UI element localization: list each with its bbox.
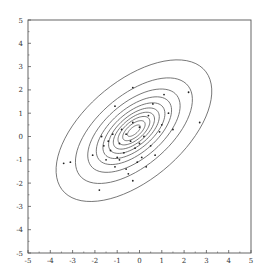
x-tick-label: 3 [204, 257, 208, 265]
data-point [121, 129, 123, 131]
data-point [110, 150, 112, 152]
data-point [69, 161, 71, 163]
data-point [105, 159, 107, 161]
data-point [127, 173, 129, 175]
contour-line [127, 125, 140, 136]
contour-line [123, 121, 145, 141]
data-point [154, 154, 156, 156]
plot-frame [28, 20, 251, 253]
data-point [139, 143, 141, 145]
y-tick-label: 3 [19, 63, 23, 71]
data-point [103, 145, 105, 147]
contour-line [56, 60, 212, 202]
data-point [159, 131, 161, 133]
x-tick-label: -4 [47, 257, 54, 265]
data-point [150, 145, 152, 147]
data-point [168, 112, 170, 114]
y-tick-label: 2 [19, 86, 23, 94]
data-point [141, 157, 143, 159]
data-point [92, 154, 94, 156]
data-point [161, 124, 163, 126]
x-tick-label: -2 [91, 257, 98, 265]
data-point [148, 115, 150, 117]
data-point [123, 152, 125, 154]
data-point [125, 168, 127, 170]
y-axis: 543210-1-2-3-4-5 [16, 17, 31, 258]
contour-line [109, 108, 160, 153]
y-tick-label: -5 [16, 250, 23, 258]
x-tick-label: 1 [160, 257, 164, 265]
y-tick-label: -3 [16, 203, 23, 211]
data-point [63, 162, 65, 164]
y-tick-label: -4 [16, 226, 23, 234]
data-point [112, 133, 114, 135]
y-tick-label: -2 [16, 180, 23, 188]
x-tick-label: -3 [69, 257, 76, 265]
x-tick-label: 2 [182, 257, 186, 265]
data-point [119, 159, 121, 161]
data-point [163, 94, 165, 96]
y-tick-label: 4 [19, 40, 24, 48]
x-tick-label: 0 [137, 257, 141, 265]
data-point [119, 143, 121, 145]
contour-line [88, 89, 180, 172]
data-point [134, 147, 136, 149]
y-tick-label: 5 [19, 17, 23, 25]
data-point [188, 91, 190, 93]
data-point [114, 166, 116, 168]
data-point [130, 140, 132, 142]
data-point [143, 136, 145, 138]
data-point [107, 140, 109, 142]
data-point [132, 122, 134, 124]
data-point [172, 129, 174, 131]
data-point [145, 166, 147, 168]
y-tick-label: -1 [16, 156, 23, 164]
data-point [101, 136, 103, 138]
data-point [136, 161, 138, 163]
data-point [139, 126, 141, 128]
x-tick-label: 5 [249, 257, 253, 265]
y-tick-label: 0 [19, 133, 23, 141]
data-point [114, 105, 116, 107]
data-point [125, 133, 127, 135]
data-point [116, 157, 118, 159]
data-point [98, 189, 100, 191]
x-tick-label: -1 [114, 257, 121, 265]
data-point [132, 180, 134, 182]
y-tick-label: 1 [19, 110, 23, 118]
data-point [199, 122, 201, 124]
x-tick-label: 4 [226, 257, 231, 265]
x-axis: -5-4-3-2-1012345 [25, 250, 254, 265]
data-point [132, 87, 134, 89]
data-point [152, 103, 154, 105]
x-tick-label: -5 [25, 257, 32, 265]
contour-scatter-chart: -5-4-3-2-1012345 543210-1-2-3-4-5 [0, 0, 267, 278]
contour-line [103, 103, 165, 159]
density-contours [56, 60, 212, 202]
